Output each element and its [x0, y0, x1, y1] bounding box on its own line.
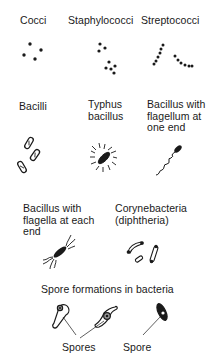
staphylococci-illustration — [97, 42, 116, 74]
bacilli-illustration — [17, 137, 41, 174]
cocci-illustration — [22, 42, 42, 60]
spore-formations-illustration — [53, 302, 170, 328]
spore-pointer-lines — [63, 316, 161, 338]
typhus-bacillus-illustration — [90, 143, 117, 172]
streptococci-illustration — [153, 44, 194, 68]
bacillus-flagellum-one-end-illustration — [156, 144, 183, 175]
bacillus-flagella-each-end-illustration — [43, 235, 75, 269]
corynebacteria-illustration — [127, 242, 158, 263]
